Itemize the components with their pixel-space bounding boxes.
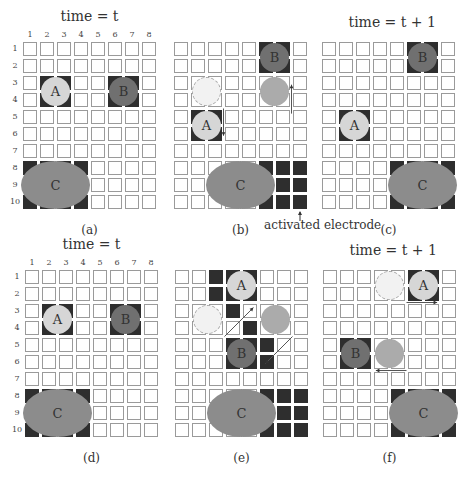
electrode[interactable] [294,372,308,386]
electrode[interactable] [441,42,455,56]
electrode[interactable] [373,144,387,158]
electrode[interactable] [294,270,308,284]
electrode[interactable] [242,110,256,124]
electrode[interactable] [76,372,90,386]
electrode[interactable] [441,110,455,124]
electrode[interactable] [357,270,371,284]
electrode[interactable] [323,287,337,301]
electrode[interactable] [74,93,88,107]
electrode[interactable] [260,270,274,284]
electrode[interactable] [442,270,456,284]
electrode[interactable] [408,372,422,386]
electrode[interactable] [225,76,239,90]
electrode[interactable] [125,42,139,56]
electrode[interactable] [424,93,438,107]
electrode[interactable] [144,355,158,369]
electrode[interactable] [374,304,388,318]
electrode[interactable] [294,321,308,335]
electrode[interactable] [42,287,56,301]
electrode[interactable] [144,372,158,386]
electrode[interactable] [259,110,273,124]
electrode[interactable] [242,93,256,107]
electrode[interactable] [125,161,139,175]
electrode[interactable] [192,287,206,301]
electrode[interactable] [76,355,90,369]
electrode[interactable] [356,93,370,107]
electrode[interactable] [110,423,124,437]
electrode[interactable] [93,270,107,284]
electrode[interactable] [110,355,124,369]
electrode[interactable] [144,338,158,352]
electrode[interactable] [108,178,122,192]
electrode[interactable] [242,144,256,158]
electrode[interactable] [74,76,88,90]
electrode[interactable] [192,372,206,386]
electrode[interactable] [74,59,88,73]
electrode[interactable] [442,287,456,301]
electrode[interactable] [441,144,455,158]
electrode[interactable] [357,372,371,386]
electrode-active[interactable] [260,338,274,352]
electrode[interactable] [57,42,71,56]
electrode[interactable] [25,372,39,386]
electrode[interactable] [127,338,141,352]
electrode[interactable] [322,178,336,192]
electrode[interactable] [144,406,158,420]
electrode[interactable] [91,42,105,56]
electrode[interactable] [174,161,188,175]
electrode[interactable] [425,321,439,335]
electrode[interactable] [23,76,37,90]
electrode[interactable] [322,93,336,107]
electrode[interactable] [74,42,88,56]
electrode-active[interactable] [293,161,307,175]
electrode[interactable] [277,372,291,386]
electrode[interactable] [91,76,105,90]
electrode[interactable] [175,372,189,386]
electrode[interactable] [293,76,307,90]
electrode[interactable] [174,59,188,73]
electrode[interactable] [93,406,107,420]
electrode[interactable] [40,110,54,124]
electrode[interactable] [40,144,54,158]
electrode-active[interactable] [226,304,240,318]
electrode[interactable] [340,372,354,386]
electrode[interactable] [125,144,139,158]
electrode[interactable] [276,127,290,141]
electrode[interactable] [442,338,456,352]
electrode[interactable] [294,338,308,352]
electrode[interactable] [407,93,421,107]
electrode[interactable] [59,372,73,386]
electrode[interactable] [175,338,189,352]
electrode[interactable] [323,372,337,386]
electrode[interactable] [144,304,158,318]
electrode[interactable] [424,76,438,90]
electrode[interactable] [294,355,308,369]
electrode[interactable] [390,93,404,107]
electrode[interactable] [110,389,124,403]
electrode[interactable] [390,144,404,158]
electrode[interactable] [373,110,387,124]
electrode[interactable] [191,144,205,158]
electrode[interactable] [175,423,189,437]
electrode[interactable] [339,178,353,192]
electrode[interactable] [91,59,105,73]
electrode[interactable] [74,110,88,124]
electrode[interactable] [208,42,222,56]
electrode[interactable] [374,321,388,335]
electrode[interactable] [125,127,139,141]
electrode[interactable] [293,93,307,107]
electrode[interactable] [174,93,188,107]
electrode[interactable] [175,270,189,284]
electrode[interactable] [208,59,222,73]
electrode[interactable] [25,287,39,301]
electrode[interactable] [144,321,158,335]
electrode-active[interactable] [294,389,308,403]
electrode[interactable] [322,59,336,73]
electrode[interactable] [42,338,56,352]
electrode[interactable] [174,110,188,124]
electrode[interactable] [293,110,307,124]
electrode[interactable] [209,355,223,369]
electrode[interactable] [242,76,256,90]
electrode[interactable] [174,195,188,209]
electrode[interactable] [175,389,189,403]
